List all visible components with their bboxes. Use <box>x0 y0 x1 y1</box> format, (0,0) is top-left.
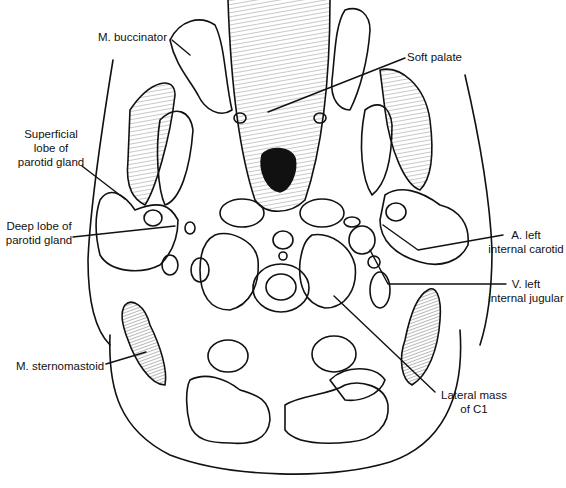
vessel-left-3 <box>162 255 178 275</box>
label-lateral-mass-c1: Lateral mass of C1 <box>438 388 510 416</box>
longus-left <box>220 199 264 227</box>
dens-small <box>279 252 287 260</box>
sternomastoid-left <box>122 302 165 385</box>
vessel-left-1 <box>185 222 195 234</box>
parotid-right <box>380 190 468 264</box>
label-superficial-lobe-parotid: Superficial lobe of parotid gland <box>10 127 92 169</box>
pointer-superficial-lobe <box>82 166 125 199</box>
dens <box>273 231 293 249</box>
spinal-cord <box>266 274 296 300</box>
posterior-muscle-left-lower <box>187 376 270 443</box>
pointer-deep-lobe <box>73 226 175 237</box>
posterior-muscle-right-mid <box>330 369 385 401</box>
carotid-left-vessel <box>344 217 360 227</box>
spinal-canal-outer <box>253 264 309 312</box>
jugular-left-vessel <box>349 226 375 254</box>
left-parotid-vessel <box>144 210 162 226</box>
label-left-internal-jugular: V. left internal jugular <box>486 277 566 305</box>
label-m-sternomastoid: M. sternomastoid <box>16 359 104 373</box>
label-m-buccinator: M. buccinator <box>98 30 167 44</box>
mandible-ramus-left <box>127 83 175 205</box>
label-deep-lobe-parotid: Deep lobe of parotid gland <box>4 219 74 247</box>
label-soft-palate: Soft palate <box>407 50 462 64</box>
vessel-right-2 <box>370 272 390 308</box>
pointer-carotid <box>383 225 503 250</box>
mandible-ramus-right <box>380 69 432 190</box>
posterior-muscle-left-oval <box>208 340 248 372</box>
maxilla-left <box>170 20 232 113</box>
label-left-internal-carotid: A. left internal carotid <box>486 228 566 256</box>
longus-right <box>300 199 344 227</box>
skin-outline-left <box>88 60 113 345</box>
sternomastoid-right <box>401 289 440 385</box>
right-parotid-vessel <box>386 203 406 221</box>
pointer-m-buccinator <box>172 40 190 55</box>
posterior-muscle-right-oval <box>312 336 356 372</box>
posterior-muscle-right-lower <box>285 383 388 443</box>
maxilla-right <box>332 9 370 110</box>
c1-right-lateral-mass <box>300 235 356 308</box>
